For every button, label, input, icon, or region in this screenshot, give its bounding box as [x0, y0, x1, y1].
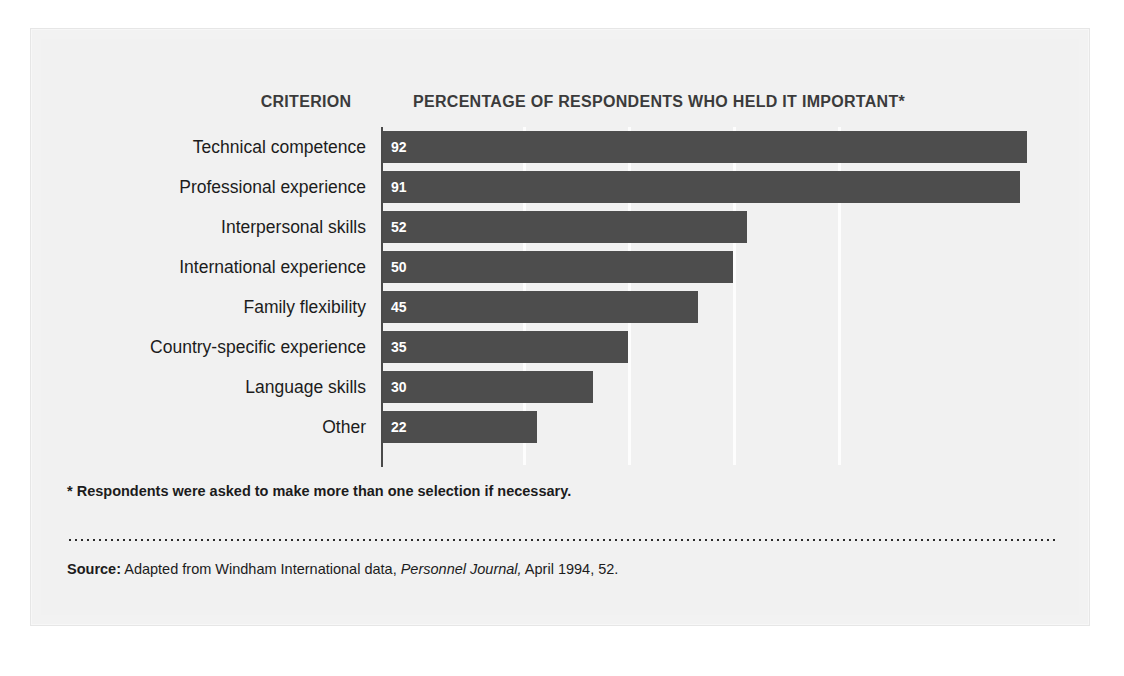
bar-row: Professional experience91	[41, 171, 1081, 203]
source-text-before: Adapted from Windham International data,	[121, 561, 401, 577]
category-label: Family flexibility	[41, 291, 366, 323]
bar: 22	[383, 411, 537, 443]
figure-panel: CRITERION PERCENTAGE OF RESPONDENTS WHO …	[30, 28, 1090, 626]
bar-row: Other22	[41, 411, 1081, 443]
bar: 52	[383, 211, 747, 243]
category-label: International experience	[41, 251, 366, 283]
bar-value-label: 50	[391, 251, 407, 283]
dotted-divider	[67, 539, 1055, 541]
bar: 35	[383, 331, 628, 363]
bar-row: Language skills30	[41, 371, 1081, 403]
figure-inner: CRITERION PERCENTAGE OF RESPONDENTS WHO …	[41, 39, 1079, 615]
chart-plot-area: CRITERION PERCENTAGE OF RESPONDENTS WHO …	[41, 39, 1081, 617]
footnote-text: * Respondents were asked to make more th…	[67, 483, 571, 499]
source-line: Source: Adapted from Windham Internation…	[67, 561, 618, 577]
source-publication: Personnel Journal,	[401, 561, 522, 577]
bar: 91	[383, 171, 1020, 203]
percentage-column-header: PERCENTAGE OF RESPONDENTS WHO HELD IT IM…	[413, 93, 905, 111]
bar-value-label: 52	[391, 211, 407, 243]
category-label: Professional experience	[41, 171, 366, 203]
bar-value-label: 30	[391, 371, 407, 403]
bar: 92	[383, 131, 1027, 163]
bar-row: International experience50	[41, 251, 1081, 283]
category-label: Language skills	[41, 371, 366, 403]
bar-value-label: 91	[391, 171, 407, 203]
criterion-column-header: CRITERION	[221, 93, 391, 111]
bar: 50	[383, 251, 733, 283]
category-label: Technical competence	[41, 131, 366, 163]
bar-value-label: 45	[391, 291, 407, 323]
bar-value-label: 35	[391, 331, 407, 363]
source-text-after: April 1994, 52.	[522, 561, 619, 577]
bar-row: Interpersonal skills52	[41, 211, 1081, 243]
bar: 30	[383, 371, 593, 403]
bar-row: Technical competence92	[41, 131, 1081, 163]
category-label: Interpersonal skills	[41, 211, 366, 243]
bar-row: Family flexibility45	[41, 291, 1081, 323]
bar-value-label: 92	[391, 131, 407, 163]
category-label: Country-specific experience	[41, 331, 366, 363]
bar-value-label: 22	[391, 411, 407, 443]
bar: 45	[383, 291, 698, 323]
source-label: Source:	[67, 561, 121, 577]
bar-row: Country-specific experience35	[41, 331, 1081, 363]
category-label: Other	[41, 411, 366, 443]
